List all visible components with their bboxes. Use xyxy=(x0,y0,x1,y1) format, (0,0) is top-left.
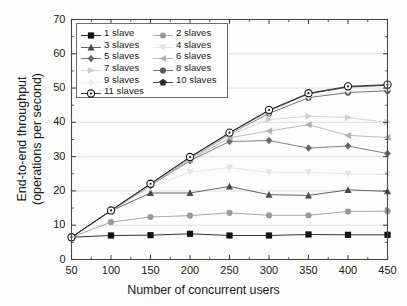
legend-label: 11 slaves xyxy=(104,85,144,96)
legend-marker-pentagon-icon xyxy=(152,74,174,85)
legend-label: 9 slaves xyxy=(104,74,139,85)
legend-item-3-slaves[interactable]: 3 slaves xyxy=(80,39,152,51)
chart-legend: 1 slave2 slaves3 slaves4 slaves5 slaves6… xyxy=(76,23,228,98)
y-axis-title-line1: End-to-end throughput xyxy=(15,76,30,201)
series-11-slaves xyxy=(68,81,391,241)
legend-item-7-slaves[interactable]: 7 slaves xyxy=(80,62,152,74)
legend-marker-diamond-icon xyxy=(80,50,102,61)
x-tick-label-400: 400 xyxy=(328,264,368,276)
legend-marker-circle-icon xyxy=(152,27,174,38)
legend-item-9-slaves[interactable]: 9 slaves xyxy=(80,73,152,85)
x-tick-label-300: 300 xyxy=(249,264,289,276)
x-tick-label-50: 50 xyxy=(52,264,92,276)
legend-entries: 1 slave2 slaves3 slaves4 slaves5 slaves6… xyxy=(77,24,227,97)
legend-marker-diamond-icon xyxy=(80,74,102,85)
series-8-slaves xyxy=(68,88,390,241)
series-9-slaves xyxy=(68,85,391,241)
legend-label: 5 slaves xyxy=(104,50,139,61)
x-tick-label-200: 200 xyxy=(170,264,210,276)
series-1-slave xyxy=(68,231,390,241)
legend-item-5-slaves[interactable]: 5 slaves xyxy=(80,50,152,62)
x-axis-title: Number of concurrent users xyxy=(0,283,407,297)
legend-item-11-slaves[interactable]: 11 slaves xyxy=(80,85,152,97)
legend-label: 1 slave xyxy=(104,27,134,38)
legend-item-4-slaves[interactable]: 4 slaves xyxy=(152,39,228,51)
legend-item-10-slaves[interactable]: 10 slaves xyxy=(152,73,228,85)
legend-marker-triangle-up-icon xyxy=(80,39,102,50)
x-tick-label-250: 250 xyxy=(210,264,250,276)
legend-item-1-slave[interactable]: 1 slave xyxy=(80,27,152,39)
y-axis-title-line2: (operations per second) xyxy=(30,73,45,205)
chart-figure: 010203040506070 501001502002503003504004… xyxy=(0,0,407,306)
legend-marker-triangle-down-icon xyxy=(152,39,174,50)
legend-label: 4 slaves xyxy=(176,39,211,50)
legend-label: 10 slaves xyxy=(176,74,217,85)
series-4-slaves xyxy=(68,165,391,241)
series-10-slaves xyxy=(68,82,391,241)
series-6-slaves xyxy=(68,121,391,240)
legend-marker-triangle-right-icon xyxy=(80,62,102,73)
legend-label: 6 slaves xyxy=(176,50,211,61)
legend-label: 7 slaves xyxy=(104,62,139,73)
legend-label: 8 slaves xyxy=(176,62,211,73)
legend-marker-square-icon xyxy=(80,27,102,38)
legend-label: 2 slaves xyxy=(176,27,211,38)
x-tick-label-100: 100 xyxy=(91,264,131,276)
legend-marker-circle-open-icon xyxy=(80,85,102,96)
x-tick-label-150: 150 xyxy=(131,264,171,276)
legend-marker-circle-icon xyxy=(152,62,174,73)
series-layer xyxy=(68,81,391,241)
legend-item-2-slaves[interactable]: 2 slaves xyxy=(152,27,228,39)
legend-marker-triangle-left-icon xyxy=(152,50,174,61)
legend-item-6-slaves[interactable]: 6 slaves xyxy=(152,50,228,62)
legend-item-8-slaves[interactable]: 8 slaves xyxy=(152,62,228,74)
x-tick-label-450: 450 xyxy=(368,264,407,276)
x-tick-label-350: 350 xyxy=(289,264,329,276)
y-axis-title: End-to-end throughput (operations per se… xyxy=(13,14,47,264)
legend-label: 3 slaves xyxy=(104,39,139,50)
